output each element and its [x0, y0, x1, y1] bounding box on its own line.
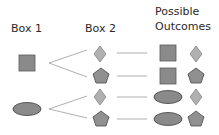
- outcome-4-pentagon: [188, 111, 204, 126]
- outcome-3-diamond: [190, 89, 202, 105]
- box2-diamond-2: [94, 89, 106, 105]
- box1-square: [19, 55, 35, 71]
- outcome-2-pentagon: [188, 68, 204, 83]
- outcome-4-ellipse: [154, 113, 182, 126]
- box2-diamond-1: [94, 46, 106, 62]
- outcome-3-ellipse: [154, 91, 182, 104]
- box2-pentagon-2: [93, 111, 109, 126]
- box2-pentagon-1: [93, 68, 109, 83]
- outcome-2-square: [160, 68, 176, 84]
- tree-diagram: [0, 0, 219, 135]
- box1-ellipse: [13, 103, 41, 116]
- outcome-1-diamond: [190, 46, 202, 62]
- branch-lines: [49, 50, 147, 119]
- outcome-1-square: [160, 45, 176, 61]
